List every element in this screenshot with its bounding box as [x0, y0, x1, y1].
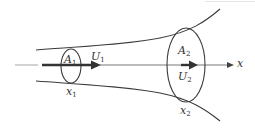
velocity-1-label: U1: [91, 51, 105, 64]
diffuser-diagram: [0, 0, 255, 128]
x-axis-label: x: [237, 58, 243, 69]
position-1-label: x1: [66, 86, 77, 99]
x-axis-arrowhead: [227, 62, 234, 68]
position-2-subscript: 2: [186, 110, 190, 118]
velocity-2-symbol: U: [178, 70, 187, 83]
velocity-1-symbol: U: [91, 50, 100, 63]
lower-duct-wall: [36, 81, 220, 121]
velocity-2-label: U2: [178, 71, 192, 84]
position-1-subscript: 1: [72, 91, 76, 99]
area-1-subscript: 1: [72, 59, 76, 67]
velocity-1-subscript: 1: [100, 56, 104, 64]
area-1-symbol: A: [64, 53, 72, 66]
area-1-label: A1: [64, 54, 76, 67]
area-2-subscript: 2: [186, 50, 190, 58]
velocity-arrow-2-head: [189, 61, 198, 70]
position-2-label: x2: [180, 105, 191, 118]
velocity-2-subscript: 2: [187, 76, 191, 84]
area-2-label: A2: [178, 45, 190, 58]
area-2-symbol: A: [178, 44, 186, 57]
